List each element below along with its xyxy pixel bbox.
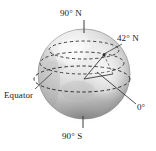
label-north-pole: 90° N — [60, 9, 82, 18]
globe-vector-graphic — [0, 0, 156, 151]
label-south-pole: 90° S — [62, 132, 82, 141]
globe-diagram-figure: 90° N 42° N Equator 0° 90° S — [0, 0, 156, 151]
label-prime-meridian: 0° — [137, 103, 145, 112]
label-equator: Equator — [4, 91, 33, 100]
label-latitude-42n: 42° N — [117, 34, 139, 43]
